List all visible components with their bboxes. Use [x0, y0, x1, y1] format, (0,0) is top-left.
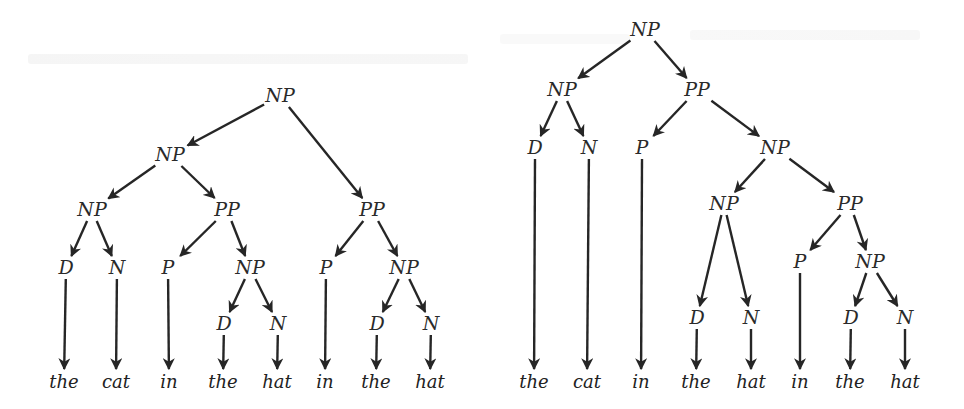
tree-edge-arrow: [727, 215, 749, 306]
tree-edge-arrow: [277, 335, 278, 369]
tree-node-n: N: [896, 306, 915, 328]
tree-edge-arrow: [877, 273, 898, 306]
tree-edge-arrow: [409, 279, 425, 312]
tree-edge-arrow: [378, 221, 397, 256]
tree-node-np: NP: [154, 143, 186, 165]
tree-edge-arrow: [655, 41, 687, 78]
leaf-word: the: [835, 371, 864, 392]
parse-tree-left: NPNPPPNPPPDNPNPPNPDNDNthecatinthehatinth…: [49, 84, 445, 392]
tree-node-pp: PP: [213, 198, 241, 220]
tree-edge-arrow: [541, 101, 557, 136]
tree-node-labels: NPNPPPDNPNPNPPPPNPDNDNthecatinthehatinth…: [519, 18, 920, 392]
tree-node-p: P: [793, 250, 808, 272]
tree-node-p: P: [319, 256, 334, 278]
tree-node-np: NP: [234, 256, 266, 278]
tree-edge-arrow: [696, 329, 697, 369]
leaf-word: hat: [262, 371, 292, 392]
tree-node-pp: PP: [836, 192, 864, 214]
tree-edge-arrow: [97, 221, 112, 256]
tree-node-labels: NPNPPPNPPPDNPNPPNPDNDNthecatinthehatinth…: [49, 84, 445, 392]
leaf-word: the: [208, 371, 237, 392]
tree-edge-arrow: [641, 159, 642, 369]
leaf-word: cat: [573, 371, 602, 392]
tree-node-np: NP: [629, 18, 661, 40]
tree-node-p: P: [161, 256, 176, 278]
tree-node-d: D: [368, 312, 384, 334]
tree-node-np: NP: [708, 192, 740, 214]
tree-node-d: D: [842, 306, 858, 328]
tree-node-np: NP: [388, 256, 420, 278]
tree-node-n: N: [580, 136, 599, 158]
tree-edge-arrow: [223, 335, 224, 369]
tree-edge-arrow: [567, 101, 583, 136]
tree-edge-arrow: [64, 279, 66, 369]
tree-edge-arrow: [850, 329, 851, 369]
tree-edge-arrow: [108, 165, 155, 198]
tree-edge-arrow: [700, 215, 722, 306]
leaf-word: the: [361, 371, 390, 392]
tree-node-n: N: [108, 256, 127, 278]
tree-edge-arrow: [854, 215, 866, 250]
tree-node-d: D: [57, 256, 73, 278]
tree-edge-arrow: [789, 159, 834, 192]
leaf-word: the: [681, 371, 710, 392]
tree-edge-arrow: [188, 105, 265, 146]
tree-node-np: NP: [76, 198, 108, 220]
tree-edge-arrow: [430, 335, 431, 369]
leaf-word: the: [49, 371, 78, 392]
tree-node-pp: PP: [358, 198, 386, 220]
leaf-word: hat: [736, 371, 766, 392]
leaf-word: the: [519, 371, 548, 392]
leaf-word: in: [316, 371, 333, 392]
tree-node-d: D: [526, 136, 542, 158]
tree-edge-arrow: [711, 101, 759, 136]
tree-node-d: D: [688, 306, 704, 328]
leaf-word: in: [791, 371, 808, 392]
tree-node-p: P: [635, 136, 650, 158]
tree-edge-arrow: [383, 279, 399, 312]
tree-node-n: N: [269, 312, 288, 334]
tree-edge-arrow: [289, 107, 362, 198]
tree-node-np: NP: [854, 250, 886, 272]
tree-edge-arrow: [810, 215, 840, 250]
parse-tree-right: NPNPPPDNPNPNPPPPNPDNDNthecatinthehatinth…: [519, 18, 920, 392]
tree-edge-arrow: [587, 159, 589, 369]
tree-edge-arrow: [578, 41, 630, 79]
tree-edge-arrow: [168, 279, 169, 369]
tree-node-pp: PP: [683, 78, 711, 100]
tree-edge-arrow: [181, 166, 214, 198]
tree-edge-arrow: [653, 101, 686, 136]
leaf-word: cat: [102, 371, 131, 392]
tree-edge-arrow: [855, 273, 866, 306]
tree-edge-arrow: [256, 279, 273, 312]
leaf-word: in: [160, 371, 177, 392]
tree-edge-arrow: [376, 335, 377, 369]
leaf-word: hat: [890, 371, 920, 392]
tree-edge-arrow: [180, 221, 216, 256]
leaf-word: hat: [415, 371, 445, 392]
tree-edge-arrow: [735, 159, 765, 192]
tree-node-np: NP: [546, 78, 578, 100]
tree-edge-arrow: [325, 279, 326, 369]
leaf-word: in: [632, 371, 649, 392]
tree-node-n: N: [742, 306, 761, 328]
tree-edge-arrow: [336, 221, 364, 256]
tree-edge-arrow: [71, 221, 87, 256]
tree-edge-arrow: [534, 159, 535, 369]
parse-tree-figure: NPNPPPNPPPDNPNPPNPDNDNthecatinthehatinth…: [0, 0, 964, 409]
tree-node-d: D: [215, 312, 231, 334]
tree-edge-arrow: [230, 279, 245, 312]
tree-edge-arrow: [231, 221, 245, 256]
tree-node-np: NP: [264, 84, 296, 106]
tree-node-np: NP: [759, 136, 791, 158]
tree-edge-arrow: [116, 279, 117, 369]
tree-node-n: N: [422, 312, 441, 334]
